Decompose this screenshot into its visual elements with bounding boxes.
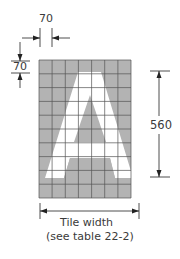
letter-a-lower-gap (64, 158, 115, 178)
left-dimension-label: 70 (13, 60, 27, 73)
right-dimension-label: 560 (150, 118, 172, 132)
top-dimension-lines (22, 28, 70, 47)
caption-line-2: (see table 22-2) (46, 230, 134, 243)
caption-line-1: Tile width (60, 216, 113, 229)
top-dimension-label: 70 (39, 12, 53, 25)
